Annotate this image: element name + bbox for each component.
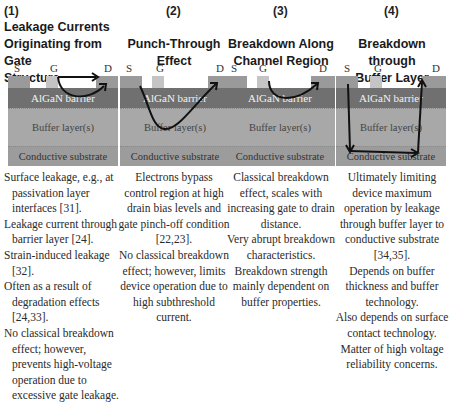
description-item: Depends on buffer thickness and buffer t… [334,264,450,311]
title-line: Leakage Currents [4,19,116,36]
drain-contact [96,76,118,88]
description-item: Breakdown strength mainly dependent on b… [225,264,337,311]
algan-barrier-layer: AlGaN barrier [8,88,118,108]
gate-contact [257,76,269,88]
algan-barrier-layer: AlGaN barrier [120,88,230,108]
buffer-layer: Buffer layer(s) [336,108,446,147]
column-number: (1) [4,4,19,18]
drain-contact [422,76,446,88]
drain-label: D [319,62,327,74]
description-item: Electrons bypass control region at high … [118,170,230,248]
drain-label: D [104,62,112,74]
source-label: S [14,62,20,74]
source-contact [225,76,247,88]
column-description: Ultimately limiting device maximum opera… [334,170,450,373]
description-item: Ultimately limiting device maximum opera… [334,170,450,264]
description-item: Surface leakage, e.g., at passivation la… [4,170,120,217]
buffer-layer: Buffer layer(s) [225,108,335,147]
column-number: (3) [273,4,288,18]
source-label: S [344,62,350,74]
description-item: Leakage current through barrier layer [2… [4,217,120,248]
gate-label: G [156,62,164,74]
column-description: Classical breakdown effect, scales with … [225,170,337,310]
drain-label: D [432,62,440,74]
description-item: Strain-induced leakage [32]. [4,248,120,279]
column-description: Surface leakage, e.g., at passivation la… [4,170,120,404]
description-item: Often as a result of degradation effects… [4,279,120,326]
conductive-substrate-layer: Conductive substrate [336,146,446,166]
title-line: Breakdown Along [225,36,337,53]
column-number: (4) [384,4,399,18]
gate-label: G [374,62,382,74]
conductive-substrate-layer: Conductive substrate [8,146,118,166]
gate-contact [152,76,164,88]
buffer-layer: Buffer layer(s) [120,108,230,147]
title-line: Punch-Through [118,36,230,53]
drain-label: D [216,62,224,74]
algan-barrier-layer: AlGaN barrier [225,88,335,108]
source-label: S [231,62,237,74]
description-item: No classical breakdown effect; however, … [4,326,120,404]
device-cross-section: S G D AlGaN barrier Buffer layer(s) Cond… [120,62,230,165]
description-item: No classical breakdown effect; however, … [118,248,230,326]
buffer-layer: Buffer layer(s) [8,108,118,147]
conductive-substrate-layer: Conductive substrate [225,146,335,166]
description-item: Very abrupt breakdown characteristics. [225,232,337,263]
source-contact [336,76,358,88]
gate-contact [370,76,382,88]
gate-label: G [259,62,267,74]
device-cross-section: S G D AlGaN barrier Buffer layer(s) Cond… [336,62,446,165]
source-label: S [126,62,132,74]
gate-contact [46,76,58,88]
conductive-substrate-layer: Conductive substrate [120,146,230,166]
column-number: (2) [166,4,181,18]
description-item: Also depends on surface contact technolo… [334,310,450,341]
column-description: Electrons bypass control region at high … [118,170,230,326]
source-contact [8,76,30,88]
source-contact [120,76,142,88]
device-cross-section: S G D AlGaN barrier Buffer layer(s) Cond… [225,62,335,165]
description-item: Classical breakdown effect, scales with … [225,170,337,232]
gate-label: G [50,62,58,74]
device-cross-section: S G D AlGaN barrier Buffer layer(s) Cond… [8,62,118,165]
algan-barrier-layer: AlGaN barrier [336,88,446,108]
drain-contact [311,76,335,88]
description-item: Matter of high voltage reliability conce… [334,342,450,373]
